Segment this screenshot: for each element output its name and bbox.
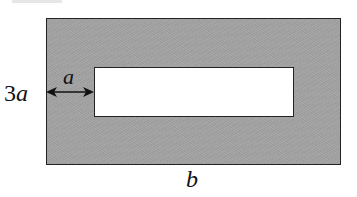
cropped-text-fragment <box>12 0 62 3</box>
height-label: 3a <box>4 80 28 107</box>
inner-cutout-rectangle <box>94 67 294 117</box>
width-label: b <box>186 166 198 193</box>
gap-label: a <box>63 64 74 90</box>
